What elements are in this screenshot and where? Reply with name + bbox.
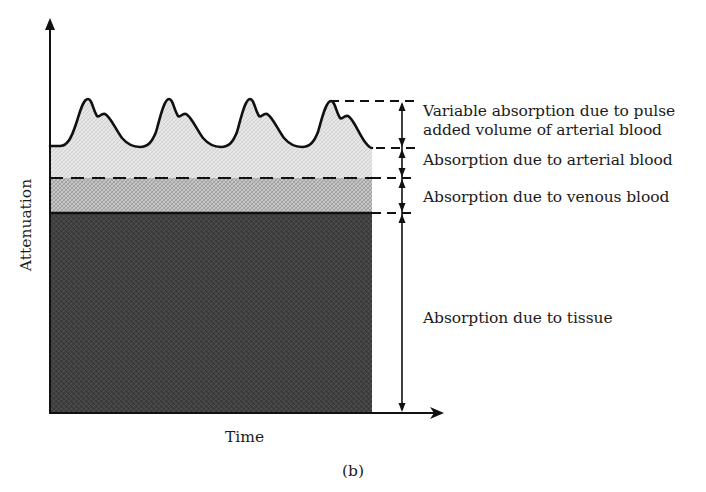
x-axis-label: Time bbox=[225, 428, 264, 446]
y-axis-label: Attenuation bbox=[17, 179, 35, 271]
y-axis-arrow-icon bbox=[45, 18, 55, 30]
arrow-down-icon bbox=[399, 403, 406, 412]
arrow-up-icon bbox=[399, 149, 406, 158]
label-tissue-absorption: Absorption due to tissue bbox=[423, 309, 613, 328]
arrow-down-icon bbox=[399, 138, 406, 147]
arrow-down-icon bbox=[399, 203, 406, 212]
figure-caption: (b) bbox=[342, 462, 364, 480]
label-pulse-line2: added volume of arterial blood bbox=[423, 121, 675, 140]
venous-band bbox=[50, 178, 372, 213]
label-arterial-absorption: Absorption due to arterial blood bbox=[423, 151, 672, 170]
arrow-down-icon bbox=[399, 168, 406, 177]
label-venous-absorption: Absorption due to venous blood bbox=[423, 188, 669, 207]
attenuation-diagram: Variable absorption due to pulse added v… bbox=[0, 0, 706, 492]
arrow-up-icon bbox=[399, 102, 406, 111]
arrow-up-icon bbox=[399, 214, 406, 223]
label-pulse-line1: Variable absorption due to pulse bbox=[423, 102, 675, 121]
label-pulse-absorption: Variable absorption due to pulse added v… bbox=[423, 102, 675, 140]
tissue-band bbox=[50, 213, 372, 413]
arrow-up-icon bbox=[399, 179, 406, 188]
diagram-canvas bbox=[0, 0, 706, 492]
